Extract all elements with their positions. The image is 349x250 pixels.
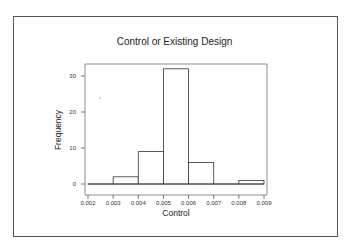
stray-dot [99, 97, 100, 98]
x-tick-label: 0.006 [181, 200, 197, 206]
y-tick-label: 20 [69, 109, 76, 115]
x-tick-label: 0.003 [106, 200, 122, 206]
x-axis-label: Control [162, 208, 190, 218]
histogram-bar [138, 152, 163, 184]
y-tick-label: 0 [73, 181, 77, 187]
y-tick-label: 30 [69, 73, 76, 79]
x-tick-label: 0.004 [131, 200, 147, 206]
x-tick-label: 0.007 [206, 200, 222, 206]
histogram-bar [163, 69, 188, 184]
y-axis: 0102030 [69, 73, 85, 187]
y-tick-label: 10 [69, 145, 76, 151]
histogram-bar [239, 180, 264, 184]
y-axis-label: Frequency [53, 109, 63, 150]
histogram-bar [189, 162, 214, 184]
x-axis: 0.0020.0030.0040.0050.0060.0070.0080.009 [80, 195, 272, 206]
histogram-bars [88, 69, 264, 184]
x-tick-label: 0.008 [231, 200, 247, 206]
x-tick-label: 0.005 [156, 200, 172, 206]
histogram-bar [113, 177, 138, 184]
x-tick-label: 0.002 [80, 200, 96, 206]
x-tick-label: 0.009 [256, 200, 272, 206]
histogram-plot: 0102030 0.0020.0030.0040.0050.0060.0070.… [0, 0, 349, 250]
